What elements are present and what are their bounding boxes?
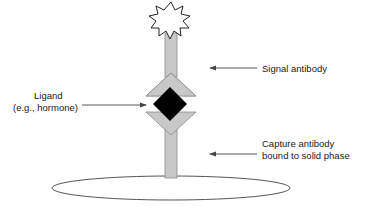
starburst-icon	[149, 2, 190, 39]
signal-antibody-stalk	[165, 33, 177, 77]
solid-phase	[52, 176, 290, 200]
capture-antibody-label-line2: bound to solid phase	[262, 150, 350, 161]
ligand-label-line2: (e.g., hormone)	[13, 102, 78, 113]
capture-antibody-label-line1: Capture antibody	[262, 138, 334, 149]
signal-antibody-label: Signal antibody	[262, 63, 327, 74]
ligand-label-line1: Ligand	[34, 90, 63, 101]
